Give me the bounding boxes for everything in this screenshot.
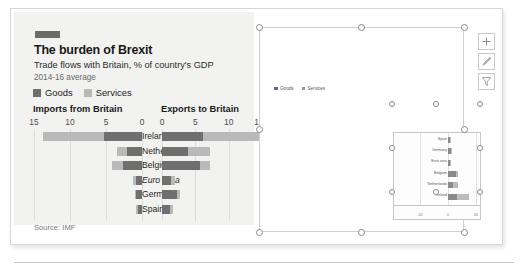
- excel-legend-label-services: Services: [308, 86, 326, 91]
- bar-segment-goods: [162, 205, 170, 214]
- selection-handle-e[interactable]: [461, 126, 468, 133]
- axis-tick-export-0: 0: [160, 117, 165, 127]
- axis-tick-import-5: 5: [104, 117, 109, 127]
- inner-handle-se[interactable]: [477, 189, 483, 195]
- bar-row-export-belgium: [162, 161, 262, 170]
- bar-segment-services: [136, 205, 137, 214]
- inner-bar-segment-services: [457, 194, 469, 200]
- excel-chart-object[interactable]: Goods Services -20020SpainGermanyEuro ar…: [259, 27, 464, 232]
- category-label-euro-area: Euro area: [142, 175, 162, 185]
- bar-segment-services: [203, 132, 260, 141]
- axis-tick-import-10: 10: [65, 117, 74, 127]
- bar-segment-services: [133, 176, 135, 185]
- category-label-spain: Spain: [142, 204, 162, 214]
- bar-segment-services: [188, 147, 210, 156]
- chart-filters-button[interactable]: [478, 73, 495, 90]
- bar-row-import-euro-area: [34, 176, 142, 185]
- selection-handle-s[interactable]: [358, 229, 365, 236]
- chart-title: The burden of Brexit: [34, 43, 152, 57]
- inner-handle-sw[interactable]: [389, 189, 395, 195]
- bar-segment-services: [43, 132, 103, 141]
- bar-row-export-germany: [162, 190, 262, 199]
- axis-ticks-exports: 051015: [162, 117, 262, 128]
- bar-segment-services: [170, 205, 173, 214]
- axis-tick-export-5: 5: [193, 117, 198, 127]
- bar-segment-services: [171, 176, 175, 185]
- excel-chart-legend[interactable]: Goods Services: [274, 86, 325, 91]
- economist-chart-image[interactable]: The burden of Brexit Trade flows with Br…: [14, 12, 254, 225]
- inner-axis-tick--20: -20: [417, 213, 422, 217]
- bar-segment-goods: [162, 176, 171, 185]
- inner-handle-s[interactable]: [433, 189, 439, 195]
- excel-legend-swatch-goods: [274, 87, 278, 91]
- bar-segment-goods: [104, 132, 142, 141]
- axis-tick-export-10: 10: [224, 117, 233, 127]
- bar-row-import-ireland: [34, 132, 142, 141]
- page-divider: [14, 262, 514, 263]
- category-label-germany: Germany: [142, 189, 162, 199]
- selection-handle-ne[interactable]: [461, 24, 468, 31]
- inner-handle-nw[interactable]: [389, 101, 395, 107]
- selection-handle-w[interactable]: [256, 126, 263, 133]
- chart-elements-button[interactable]: [478, 33, 495, 50]
- chart-styles-button[interactable]: [478, 53, 495, 70]
- category-label-ireland: Ireland: [142, 131, 162, 141]
- bar-row-export-ireland: [162, 132, 262, 141]
- bar-segment-services: [135, 190, 136, 199]
- inner-bar-segment-services: [453, 182, 458, 188]
- inner-bar-row: [394, 148, 480, 154]
- plot-area-labels: IrelandNetherlandsBelgiumEuro areaGerman…: [142, 129, 162, 221]
- bar-segment-goods: [162, 147, 188, 156]
- inner-bar-row: [394, 182, 480, 188]
- inner-handle-ne[interactable]: [477, 101, 483, 107]
- excel-legend-item-services[interactable]: Services: [302, 86, 326, 91]
- legend-item-goods: Goods: [33, 87, 73, 98]
- selection-handle-nw[interactable]: [256, 24, 263, 31]
- inner-bar-row: [394, 137, 480, 143]
- bar-segment-goods: [127, 147, 142, 156]
- chart-subtitle: Trade flows with Britain, % of country's…: [34, 60, 214, 70]
- bar-row-export-euro-area: [162, 176, 262, 185]
- inner-bar-segment-services: [450, 160, 451, 166]
- inner-bar-segment-goods: [448, 194, 457, 200]
- funnel-icon: [481, 76, 492, 87]
- legend-label-services: Services: [96, 87, 132, 98]
- category-label-belgium: Belgium: [142, 160, 162, 170]
- inner-axis-tick-0: 0: [447, 213, 449, 217]
- excel-legend-item-goods[interactable]: Goods: [274, 86, 294, 91]
- inner-bar-segment-goods: [448, 171, 456, 177]
- inner-bar-row: [394, 160, 480, 166]
- inner-handle-w[interactable]: [389, 145, 395, 151]
- bar-segment-goods: [162, 161, 200, 170]
- bar-row-import-spain: [34, 205, 142, 214]
- excel-inner-plot-area[interactable]: -20020SpainGermanyEuro areaBelgiumNether…: [393, 132, 481, 220]
- bar-row-import-germany: [34, 190, 142, 199]
- chart-source-note: Source: IMF: [34, 223, 75, 232]
- bar-segment-goods: [162, 132, 203, 141]
- selection-handle-sw[interactable]: [256, 229, 263, 236]
- bar-segment-goods: [136, 176, 142, 185]
- category-label-netherlands: Netherlands: [142, 146, 162, 156]
- bar-segment-services: [200, 161, 210, 170]
- selection-handle-se[interactable]: [461, 229, 468, 236]
- panel-heading-imports: Imports from Britain: [33, 104, 122, 114]
- inner-axis-tick-20: 20: [474, 213, 478, 217]
- axis-tick-import-0: 0: [140, 117, 145, 127]
- chart-side-toolbar[interactable]: [478, 33, 495, 93]
- chart-legend: Goods Services: [33, 87, 132, 98]
- bar-segment-services: [177, 190, 180, 199]
- legend-item-services: Services: [84, 87, 132, 98]
- plus-icon: [481, 36, 492, 47]
- panel-heading-exports: Exports to Britain: [161, 104, 239, 114]
- axis-tick-import-15: 15: [29, 117, 38, 127]
- chart-period-note: 2014-16 average: [34, 73, 96, 82]
- inner-handle-n[interactable]: [433, 101, 439, 107]
- excel-legend-swatch-services: [302, 87, 306, 91]
- bar-segment-goods: [162, 190, 177, 199]
- selection-handle-n[interactable]: [358, 24, 365, 31]
- inner-bar-segment-services: [451, 148, 452, 154]
- inner-handle-e[interactable]: [477, 145, 483, 151]
- economist-brand-tag: [35, 31, 60, 38]
- legend-label-goods: Goods: [45, 87, 73, 98]
- inner-bar-segment-services: [456, 171, 458, 177]
